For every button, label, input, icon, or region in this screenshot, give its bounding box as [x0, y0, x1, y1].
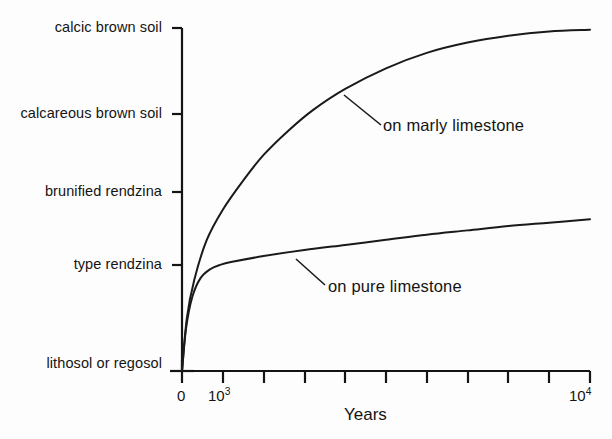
soil-development-chart: calcic brown soil calcareous brown soil …	[0, 0, 612, 439]
x-axis-ticks	[223, 371, 590, 383]
y-axis-label-type-rendzina: type rendzina	[74, 257, 162, 272]
y-axis-label-brunified-rendzina: brunified rendzina	[45, 184, 162, 199]
series-annotation-marly-limestone: on marly limestone	[383, 117, 524, 134]
y-axis-label-lithosol-or-regosol: lithosol or regosol	[46, 356, 162, 371]
x-axis-label-1e4-base: 10	[569, 387, 586, 404]
curve-on-pure-limestone	[182, 219, 590, 371]
x-axis-label-1e4-exponent: 4	[586, 386, 592, 397]
curve-on-marly-limestone	[182, 30, 590, 371]
y-axis-label-calcic-brown-soil: calcic brown soil	[55, 20, 162, 35]
chart-plot-area	[0, 0, 612, 439]
x-axis-label-1e3-base: 10	[208, 387, 225, 404]
x-axis-label-1e3: 103	[208, 388, 230, 403]
x-axis-label-1e4: 104	[569, 388, 591, 403]
leader-line-marly	[344, 95, 381, 125]
y-axis-label-calcareous-brown-soil: calcareous brown soil	[20, 106, 162, 121]
series-annotation-pure-limestone: on pure limestone	[328, 278, 462, 295]
leader-line-pure	[296, 259, 325, 285]
x-axis-label-zero: 0	[177, 388, 185, 403]
x-axis-label-1e3-exponent: 3	[225, 386, 231, 397]
x-axis-title: Years	[344, 406, 387, 423]
